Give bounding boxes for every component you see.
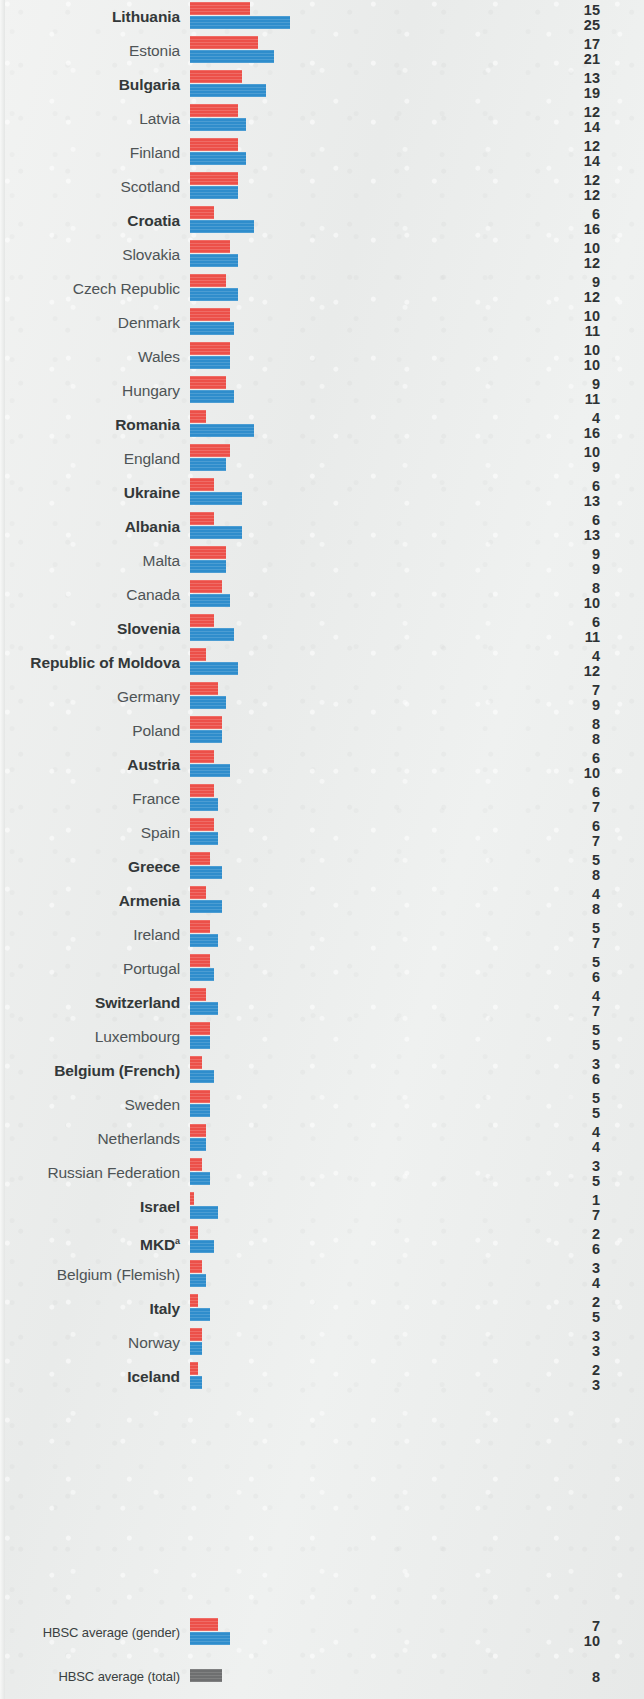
row-label-canada: Canada [126,578,180,612]
value-boys: 3 [592,1057,600,1072]
value-boys: 4 [592,649,600,664]
row-label-ireland: Ireland [133,918,180,952]
bar-girls [190,968,214,981]
value-boys: 6 [592,785,600,800]
bar-boys [190,1226,198,1239]
chart-row: Czech Republic912 [0,272,644,306]
value-label-group: 1010 [520,340,600,374]
value-girls: 12 [584,256,600,271]
chart-row: Norway33 [0,1326,644,1360]
bar-girls [190,1070,214,1083]
bar-boys [190,274,226,287]
bar-boys [190,36,258,49]
value-label-group: 8 [520,1660,600,1694]
chart-row: Latvia1214 [0,102,644,136]
bar-girls [190,1104,210,1117]
chart-row: Hungary911 [0,374,644,408]
row-label-wales: Wales [138,340,180,374]
value-boys: 9 [592,377,600,392]
bar-girls [190,1206,218,1219]
chart-row: France67 [0,782,644,816]
chart-row: Malta99 [0,544,644,578]
bar-girls [190,186,238,199]
value-girls: 7 [592,1208,600,1223]
bar-girls [190,220,254,233]
row-label-scotland: Scotland [120,170,180,204]
value-label-group: 912 [520,272,600,306]
value-boys: 6 [592,751,600,766]
value-label-group: 109 [520,442,600,476]
chart-row-average-total: HBSC average (total)8 [0,1660,644,1694]
value-girls: 12 [584,290,600,305]
bar-girls [190,1240,214,1253]
bar-girls [190,16,290,29]
value-label-group: 57 [520,918,600,952]
bar-girls [190,1036,210,1049]
value-girls: 7 [592,936,600,951]
value-girls: 16 [584,426,600,441]
chart-row: Germany79 [0,680,644,714]
bar-girls [190,254,238,267]
chart-row: England109 [0,442,644,476]
value-label-group: 58 [520,850,600,884]
value-girls: 13 [584,494,600,509]
row-label-austria: Austria [127,748,180,782]
bar-girls [190,1376,202,1389]
bar-boys [190,1328,202,1341]
bar-boys [190,648,206,661]
bar-girls [190,118,246,131]
bar-boys [190,682,218,695]
value-boys: 6 [592,207,600,222]
bar-girls [190,1308,210,1321]
chart-row-average-gender: HBSC average (gender)710 [0,1616,644,1650]
bar-boys [190,240,230,253]
value-girls: 8 [592,902,600,917]
row-label-lithuania: Lithuania [112,0,180,34]
value-boys: 5 [592,921,600,936]
bar-girls [190,1342,202,1355]
chart-row: Switzerland47 [0,986,644,1020]
value-boys: 5 [592,955,600,970]
bar-boys [190,1124,206,1137]
bar-boys [190,784,214,797]
horizontal-bar-chart: Lithuania1525Estonia1721Bulgaria1319Latv… [0,0,644,1699]
value-label-group: 88 [520,714,600,748]
value-average-total: 8 [592,1670,600,1685]
value-boys: 4 [592,1125,600,1140]
row-label-finland: Finland [130,136,180,170]
value-label-group: 1011 [520,306,600,340]
row-label-ukraine: Ukraine [124,476,180,510]
value-girls: 8 [592,868,600,883]
value-average-boys: 7 [592,1619,600,1634]
value-girls: 12 [584,664,600,679]
value-boys: 2 [592,1295,600,1310]
bar-boys [190,546,226,559]
bar-boys [190,444,230,457]
bar-boys [190,614,214,627]
footnote-marker: a [175,1236,180,1246]
value-boys: 1 [592,1193,600,1208]
value-girls: 6 [592,1072,600,1087]
bar-boys [190,920,210,933]
value-label-group: 55 [520,1088,600,1122]
value-label-group: 1319 [520,68,600,102]
row-label-bulgaria: Bulgaria [119,68,180,102]
bar-boys [190,988,206,1001]
value-label-group: 17 [520,1190,600,1224]
value-boys: 10 [584,241,600,256]
bar-girls [190,322,234,335]
chart-row: Ireland57 [0,918,644,952]
bar-boys [190,478,214,491]
bar-average-girls [190,1632,230,1645]
bar-boys [190,818,214,831]
value-boys: 6 [592,615,600,630]
value-girls: 7 [592,1004,600,1019]
row-label-malta: Malta [143,544,180,578]
row-label-poland: Poland [132,714,180,748]
bar-average-total [190,1669,222,1682]
chart-row: Belgium (Flemish)34 [0,1258,644,1292]
bar-girls [190,390,234,403]
value-girls: 14 [584,154,600,169]
value-boys: 4 [592,887,600,902]
value-boys: 12 [584,173,600,188]
